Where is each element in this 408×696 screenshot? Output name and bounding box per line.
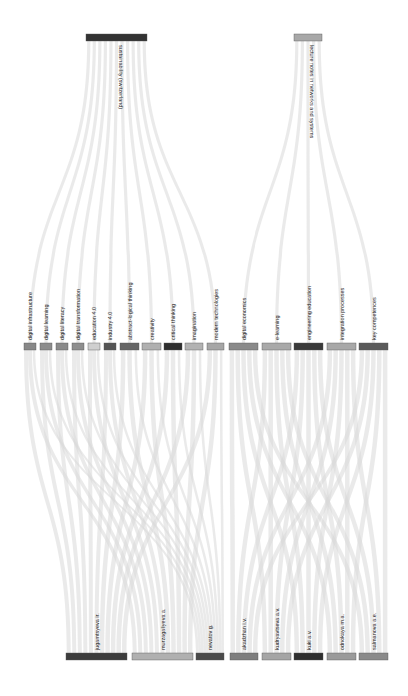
node-sustainability[interactable]: [86, 34, 147, 41]
node-label-a7: odnokaya m.a.: [339, 613, 345, 650]
flow-link: [275, 41, 304, 343]
node-k14[interactable]: [294, 343, 323, 350]
node-a8[interactable]: [359, 653, 388, 660]
node-label-a4: akadzhan i.v.: [241, 618, 247, 650]
node-k3[interactable]: [56, 343, 68, 350]
node-label-k10: imagination: [191, 312, 197, 340]
node-label-a2: murzagaliyeva a.: [160, 608, 166, 650]
node-k4[interactable]: [72, 343, 84, 350]
node-k1[interactable]: [24, 343, 36, 350]
node-label-k11: modern technologies: [213, 289, 219, 340]
node-label-a5: kudryavtseva a.v.: [274, 607, 280, 650]
node-label-k8: creativity: [149, 318, 155, 340]
node-label-lecture_notes: lecture notes in networks and systems: [309, 45, 315, 138]
node-label-k15: integration processes: [339, 287, 345, 340]
node-label-k14: engineering education: [306, 286, 312, 340]
sankey-svg: sustainability (switzerland)lecture note…: [0, 0, 408, 696]
node-k8[interactable]: [142, 343, 161, 350]
node-k12[interactable]: [229, 343, 258, 350]
node-label-k9: critical thinking: [170, 304, 176, 340]
node-a1[interactable]: [66, 653, 127, 660]
node-label-k12: digital economics: [241, 298, 247, 340]
node-k13[interactable]: [262, 343, 291, 350]
node-k6[interactable]: [104, 343, 116, 350]
node-label-k3: digital literacy: [59, 306, 65, 340]
node-a5[interactable]: [262, 653, 291, 660]
node-label-k6: industry 4.0: [107, 312, 113, 340]
flow-link: [88, 350, 93, 653]
node-label-k4: digital transformation: [75, 289, 81, 340]
node-a3[interactable]: [196, 653, 224, 660]
node-label-a3: nevatov g.: [207, 624, 213, 650]
node-label-a8: salmanova a.e.: [371, 612, 377, 650]
node-label-k2: digital learning: [43, 305, 49, 340]
node-a2[interactable]: [132, 653, 193, 660]
node-k2[interactable]: [40, 343, 52, 350]
node-a4[interactable]: [230, 653, 258, 660]
node-label-k7: abstract-logical thinking: [127, 283, 133, 340]
node-label-k5: education 4.0: [91, 307, 97, 340]
node-k7[interactable]: [120, 343, 139, 350]
flow-link: [383, 350, 388, 653]
node-label-sustainability: sustainability (switzerland): [118, 45, 124, 109]
node-label-k13: e-learning: [274, 316, 280, 340]
node-label-a1: jugamtsyeva ir.: [94, 613, 100, 651]
node-a6[interactable]: [294, 653, 323, 660]
node-a7[interactable]: [327, 653, 356, 660]
node-k11[interactable]: [207, 343, 224, 350]
node-k5[interactable]: [88, 343, 100, 350]
sankey-diagram: sustainability (switzerland)lecture note…: [0, 0, 408, 696]
node-k15[interactable]: [327, 343, 356, 350]
node-label-k1: digital infrastructure: [27, 292, 33, 340]
flow-link: [230, 350, 235, 653]
node-k9[interactable]: [164, 343, 182, 350]
node-label-k16: key competences: [371, 297, 377, 340]
node-lecture_notes[interactable]: [294, 34, 322, 41]
node-label-a6: kuki a.v.: [306, 630, 312, 650]
node-k16[interactable]: [359, 343, 388, 350]
node-k10[interactable]: [185, 343, 203, 350]
